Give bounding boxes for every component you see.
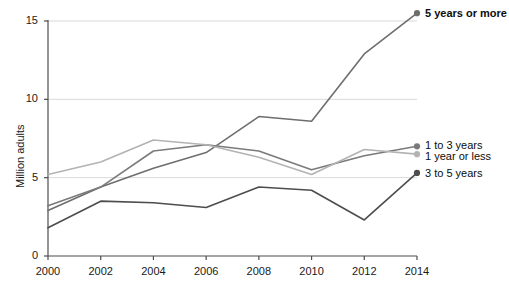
x-tick-label: 2004 [131,265,175,277]
x-tick-label: 2002 [79,265,123,277]
axis-lines [48,20,417,256]
series-endpoint-2 [414,151,420,157]
series-endpoint-markers [414,10,420,176]
series-lines [48,13,417,228]
series-line-3 [48,173,417,228]
series-label-0: 5 years or more [425,7,507,19]
series-line-0 [48,13,417,210]
y-tick-label: 0 [12,249,38,261]
series-endpoint-1 [414,143,420,149]
x-tick-label: 2000 [26,265,70,277]
y-tick-label: 15 [12,14,38,26]
series-endpoint-0 [414,10,420,16]
gridlines [48,21,417,178]
series-label-3: 3 to 5 years [425,167,482,179]
series-line-2 [48,140,417,174]
series-endpoint-3 [414,170,420,176]
y-tick-label: 10 [12,92,38,104]
x-tick-label: 2010 [290,265,334,277]
y-tick-label: 5 [12,171,38,183]
x-tick-label: 2012 [342,265,386,277]
x-tick-label: 2008 [237,265,281,277]
x-tick-label: 2006 [184,265,228,277]
line-chart: Million adults 051015 200020022004200620… [0,0,509,299]
series-label-2: 1 year or less [425,150,491,162]
x-tick-label: 2014 [395,265,439,277]
